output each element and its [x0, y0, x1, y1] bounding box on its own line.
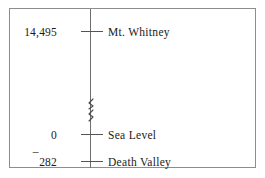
tick-mark-death-valley: [81, 161, 103, 162]
value-number-death-valley: 282: [39, 156, 57, 168]
tick-mark-mt-whitney: [81, 31, 103, 32]
place-label-death-valley: Death Valley: [108, 155, 171, 169]
figure-frame: 14,495 Mt. Whitney 0 Sea Level ¯282 Deat…: [9, 8, 256, 168]
value-label-mt-whitney: 14,495: [24, 25, 57, 39]
place-label-sea-level: Sea Level: [108, 128, 156, 142]
marker-row-mt-whitney: 14,495 Mt. Whitney: [10, 25, 255, 39]
value-label-death-valley: ¯282: [33, 155, 57, 169]
marker-row-death-valley: ¯282 Death Valley: [10, 155, 255, 169]
place-label-mt-whitney: Mt. Whitney: [108, 25, 170, 39]
marker-row-sea-level: 0 Sea Level: [10, 128, 255, 142]
axis-break-squiggle-icon: [84, 97, 98, 123]
tick-mark-sea-level: [81, 134, 103, 135]
value-label-sea-level: 0: [51, 128, 57, 142]
